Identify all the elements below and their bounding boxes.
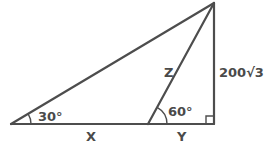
angle-60-arc bbox=[157, 107, 167, 124]
height-label: 200√3 bbox=[219, 65, 264, 80]
triangle-diagram: 30° 60° X Y Z 200√3 bbox=[0, 0, 267, 146]
angle-30-label: 30° bbox=[38, 109, 63, 124]
angle-30-arc bbox=[28, 114, 31, 124]
segment-y-label: Y bbox=[176, 129, 187, 144]
right-angle-marker-icon bbox=[206, 116, 214, 124]
segment-x-label: X bbox=[86, 129, 96, 144]
diagram-canvas: 30° 60° X Y Z 200√3 bbox=[0, 0, 267, 146]
segment-z-label: Z bbox=[164, 65, 173, 80]
angle-60-label: 60° bbox=[168, 104, 193, 119]
